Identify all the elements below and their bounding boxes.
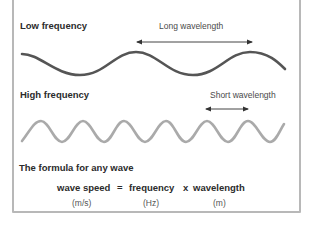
unit-wavelength: (m)	[213, 198, 226, 208]
formula-term-wave-speed: wave speed	[57, 182, 110, 193]
unit-frequency: (Hz)	[143, 198, 159, 208]
formula-equals: =	[117, 182, 123, 193]
formula-term-frequency: frequency	[129, 182, 174, 193]
unit-wave-speed: (m/s)	[72, 198, 91, 208]
formula-heading: The formula for any wave	[19, 162, 134, 173]
low-frequency-wave	[22, 52, 285, 75]
formula-times: x	[183, 182, 188, 193]
high-frequency-wave	[22, 121, 284, 142]
wave-formula: wave speed = frequency x wavelength	[0, 182, 312, 194]
formula-term-wavelength: wavelength	[193, 182, 245, 193]
